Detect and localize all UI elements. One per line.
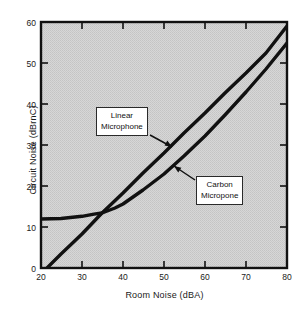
plot-area-background: [41, 22, 287, 268]
x-tick-label-80: 80: [276, 272, 298, 282]
x-tick-label-50: 50: [153, 272, 175, 282]
x-tick-label-60: 60: [194, 272, 216, 282]
chart-figure: Circuit Noise (dBrnC) Room Noise (dBA) 6…: [0, 0, 302, 312]
chart-canvas: [0, 0, 302, 312]
annotation-carbon-line-1: Carbon: [201, 179, 238, 190]
y-tick-label-10: 10: [14, 223, 36, 233]
x-tick-label-40: 40: [112, 272, 134, 282]
x-tick-label-70: 70: [235, 272, 257, 282]
y-tick-label-60: 60: [14, 18, 36, 28]
annotation-carbon-line-2: Micropone: [201, 190, 238, 201]
y-tick-label-20: 20: [14, 182, 36, 192]
y-tick-label-50: 50: [14, 59, 36, 69]
y-tick-label-30: 30: [14, 141, 36, 151]
x-axis-title: Room Noise (dBA): [41, 290, 288, 300]
annotation-label-linear-microphone: Linear Microphone: [96, 107, 148, 136]
x-tick-label-30: 30: [71, 272, 93, 282]
annotation-label-carbon-micropone: Carbon Micropone: [196, 176, 243, 205]
annotation-linear-line-2: Microphone: [101, 121, 143, 132]
y-tick-label-40: 40: [14, 100, 36, 110]
x-tick-label-20: 20: [30, 272, 52, 282]
annotation-linear-line-1: Linear: [101, 110, 143, 121]
